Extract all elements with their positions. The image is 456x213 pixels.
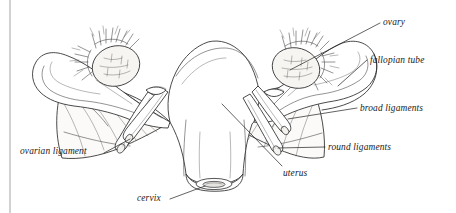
label-cervix: cervix xyxy=(137,194,161,203)
label-ovarian-ligament: ovarian ligament xyxy=(20,147,87,156)
label-ovary: ovary xyxy=(383,18,405,27)
cervical-os xyxy=(203,181,225,187)
label-broad-ligaments: broad ligaments xyxy=(360,104,423,113)
uterus-body xyxy=(168,41,261,184)
label-uterus: uterus xyxy=(283,169,307,178)
anatomy-figure: ovary fallopian tube broad ligaments rou… xyxy=(0,0,456,213)
leader-cervix xyxy=(170,186,205,199)
label-fallopian-tube: fallopian tube xyxy=(370,56,424,65)
label-round-ligaments: round ligaments xyxy=(328,143,391,152)
